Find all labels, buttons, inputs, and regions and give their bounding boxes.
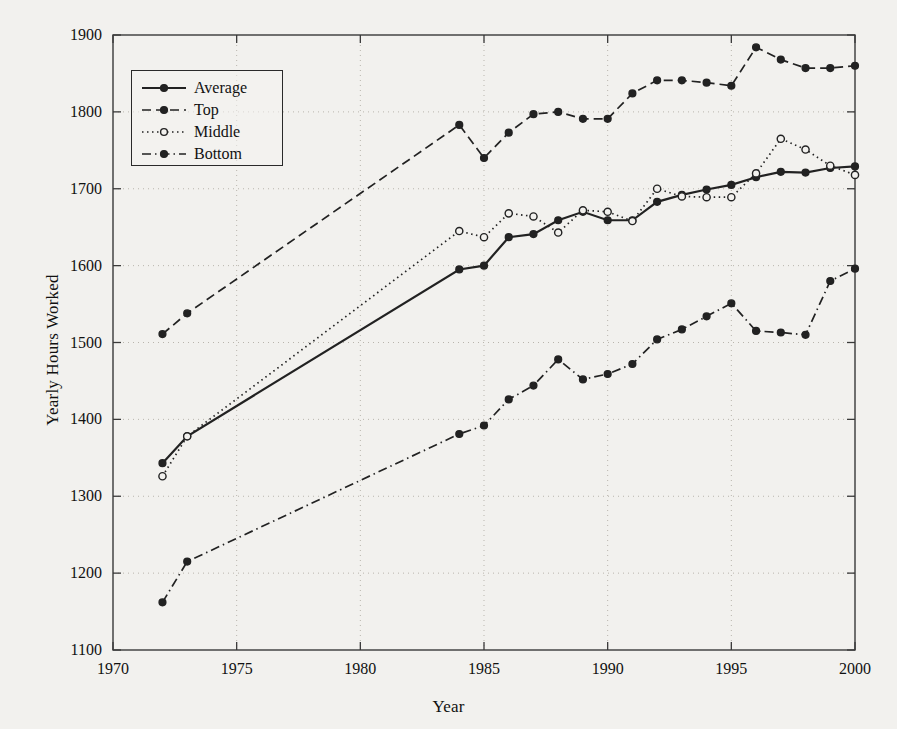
data-point [654, 336, 661, 343]
legend-item-average[interactable]: Average [132, 76, 282, 100]
data-point [505, 210, 512, 217]
data-point [505, 396, 512, 403]
data-point [827, 65, 834, 72]
data-point [728, 182, 735, 189]
data-point [852, 62, 859, 69]
data-point [752, 170, 759, 177]
y-tick-label: 1600 [30, 257, 102, 275]
series-middle [159, 135, 859, 480]
data-point [184, 558, 191, 565]
data-point [530, 231, 537, 238]
data-point [481, 155, 488, 162]
data-point [678, 326, 685, 333]
x-axis-title: Year [0, 697, 897, 717]
data-point [184, 433, 191, 440]
data-point [654, 77, 661, 84]
legend-label: Top [194, 99, 219, 121]
data-point [629, 90, 636, 97]
data-point [480, 234, 487, 241]
series-average [159, 163, 858, 467]
data-point [852, 265, 859, 272]
data-point [604, 371, 611, 378]
legend-item-middle[interactable]: Middle [132, 120, 282, 144]
y-tick-label: 1900 [30, 26, 102, 44]
data-point [555, 108, 562, 115]
y-tick-label: 1800 [30, 103, 102, 121]
legend-label: Bottom [194, 143, 242, 165]
legend-item-bottom[interactable]: Bottom [132, 142, 282, 166]
data-point [530, 111, 537, 118]
data-point [678, 77, 685, 84]
data-point [555, 356, 562, 363]
legend-line-sample-icon [140, 142, 188, 166]
data-point [777, 168, 784, 175]
data-point [802, 146, 809, 153]
legend-line-sample-icon [140, 120, 188, 144]
data-point [184, 310, 191, 317]
x-tick-label: 2000 [839, 660, 871, 678]
data-point [654, 185, 661, 192]
data-point [802, 65, 809, 72]
legend-item-top[interactable]: Top [132, 98, 282, 122]
data-point [753, 328, 760, 335]
data-point [678, 193, 685, 200]
data-point [159, 331, 166, 338]
data-point [728, 82, 735, 89]
x-tick-label: 1990 [592, 660, 624, 678]
legend[interactable]: AverageTopMiddleBottom [131, 70, 283, 166]
data-point [703, 194, 710, 201]
legend-label: Average [194, 77, 247, 99]
data-point [505, 234, 512, 241]
x-tick-label: 1975 [221, 660, 253, 678]
y-tick-label: 1700 [30, 180, 102, 198]
data-point [159, 460, 166, 467]
data-point [555, 217, 562, 224]
data-point [629, 217, 636, 224]
data-point [777, 135, 784, 142]
data-point [505, 129, 512, 136]
data-point [851, 171, 858, 178]
chart-figure: 110012001300140015001600170018001900 197… [0, 0, 897, 729]
data-point [159, 473, 166, 480]
data-point [654, 198, 661, 205]
data-point [481, 422, 488, 429]
data-point [555, 229, 562, 236]
data-point [530, 382, 537, 389]
data-point [852, 163, 859, 170]
data-point [703, 79, 710, 86]
x-tick-label: 1995 [715, 660, 747, 678]
data-point [580, 376, 587, 383]
data-point [604, 217, 611, 224]
data-point [481, 262, 488, 269]
y-axis-title: Yearly Hours Worked [43, 220, 63, 480]
data-point [604, 208, 611, 215]
data-point [530, 213, 537, 220]
data-point [827, 278, 834, 285]
legend-label: Middle [194, 121, 240, 143]
data-point [580, 115, 587, 122]
data-point [629, 361, 636, 368]
y-tick-label: 1300 [30, 487, 102, 505]
series-bottom [159, 265, 858, 605]
data-point [802, 169, 809, 176]
data-point [728, 300, 735, 307]
x-tick-label: 1985 [468, 660, 500, 678]
data-point [703, 313, 710, 320]
data-point [579, 207, 586, 214]
legend-line-sample-icon [140, 98, 188, 122]
y-tick-label: 1400 [30, 410, 102, 428]
data-point [456, 266, 463, 273]
data-point [456, 227, 463, 234]
data-point [703, 186, 710, 193]
y-tick-label: 1100 [30, 641, 102, 659]
x-tick-label: 1970 [97, 660, 129, 678]
y-tick-label: 1200 [30, 564, 102, 582]
data-point [777, 329, 784, 336]
data-point [604, 115, 611, 122]
data-point [827, 162, 834, 169]
y-tick-label: 1500 [30, 334, 102, 352]
legend-line-sample-icon [140, 76, 188, 100]
x-tick-label: 1980 [344, 660, 376, 678]
data-point [802, 331, 809, 338]
data-point [456, 431, 463, 438]
